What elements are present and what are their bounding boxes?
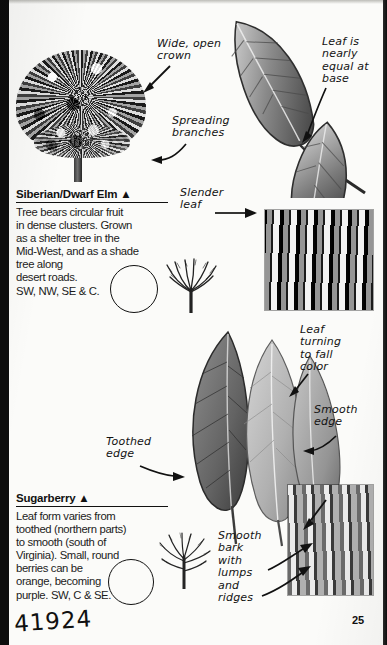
scan-edge-top: [0, 0, 387, 4]
scan-edge-left: [0, 0, 9, 645]
arrow-to-crown: [140, 62, 172, 94]
annotation-toothed-edge: Toothed edge: [106, 436, 151, 461]
hand-drawn-circle-sugarberry: [108, 559, 154, 605]
handwritten-scribble: 41924: [13, 605, 93, 636]
annotation-spreading-branches: Spreading branches: [172, 115, 230, 140]
annotation-smooth-bark: Smooth bark with lumps and ridges: [218, 530, 262, 604]
annotation-smooth-edge: Smooth edge: [314, 404, 358, 429]
entry-title-sugarberry: Sugarberry ▲: [16, 492, 168, 507]
hand-drawn-circle-elm: [110, 265, 158, 313]
arrow-to-toothed-edge: [140, 462, 190, 482]
sugarberry-winter-silhouette: [152, 527, 216, 589]
arrow-to-bark-upper: [268, 540, 314, 574]
elm-winter-silhouette: [160, 255, 222, 313]
page-number: 25: [352, 614, 364, 626]
arrow-to-leaf-base: [296, 86, 330, 144]
arrow-to-branches: [148, 140, 188, 166]
arrow-to-bark-top: [300, 498, 330, 532]
annotation-leaf-fall-color: Leaf turning to fall color: [300, 324, 341, 374]
annotation-wide-open-crown: Wide, open crown: [157, 38, 221, 63]
scan-edge-right: [383, 0, 387, 645]
entry-title-elm: Siberian/Dwarf Elm ▲: [16, 188, 168, 203]
field-guide-page: Siberian/Dwarf Elm ▲ Tree bears circular…: [0, 0, 387, 645]
arrow-to-slender-leaf: [215, 206, 259, 220]
tree-crown-photo: [12, 50, 150, 182]
annotation-leaf-equal-at-base: Leaf is nearly equal at base: [322, 36, 369, 86]
arrow-to-fall-color: [286, 372, 312, 398]
arrow-to-smooth-edge: [300, 432, 340, 456]
elm-bark-photo: [265, 210, 373, 310]
